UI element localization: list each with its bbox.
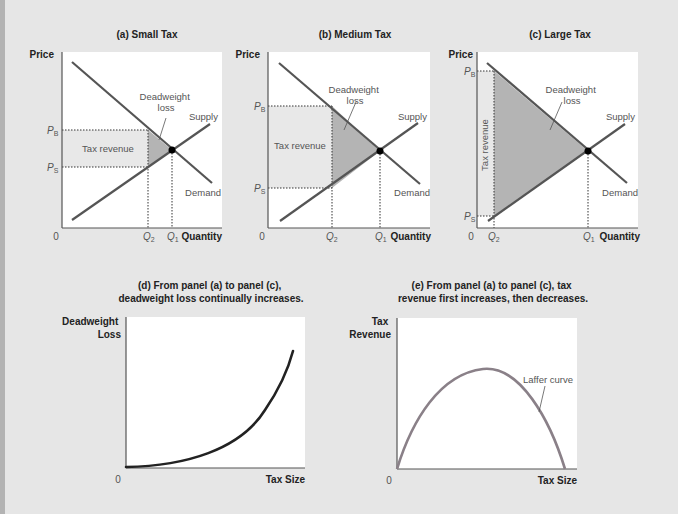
panel-c-tax-revenue-label: Tax revenue — [479, 119, 490, 171]
panel-a-origin: 0 — [53, 231, 59, 242]
panel-c-demand-label: Demand — [602, 187, 638, 198]
panel-c-q1-label: Q1 — [583, 231, 595, 243]
panel-e-tax-revenue: (e) From panel (a) to panel (c), tax rev… — [349, 280, 588, 486]
figure: (a) Small Tax Price Quantity 0 Deadweigh… — [0, 0, 678, 514]
panel-d-y-axis-label: Deadweight Loss — [62, 316, 121, 340]
panel-a-q1-label: Q1 — [167, 231, 179, 243]
panel-c-ps-label: PS — [464, 211, 476, 223]
panel-c-large-tax: (c) Large Tax Price Quantity 0 Deadweigh… — [449, 29, 641, 243]
panel-e-title: (e) From panel (a) to panel (c), tax rev… — [398, 280, 588, 304]
panel-c-q2-label: Q2 — [488, 231, 500, 243]
panel-e-plot-area — [397, 318, 577, 469]
panel-b-title: (b) Medium Tax — [319, 29, 392, 40]
panel-e-origin: 0 — [386, 475, 392, 486]
panel-a-x-axis-label: Quantity — [181, 231, 222, 242]
panel-b-equilibrium-point — [377, 148, 384, 155]
panel-a-small-tax: (a) Small Tax Price Quantity 0 Deadweigh… — [30, 29, 223, 243]
panel-b-tax-revenue-label: Tax revenue — [274, 140, 326, 151]
panel-b-origin: 0 — [259, 231, 265, 242]
panel-b-ps-label: PS — [254, 183, 266, 195]
panel-c-pb-label: PB — [464, 66, 476, 78]
panel-b-medium-tax: (b) Medium Tax Price Quantity 0 Deadweig… — [236, 29, 432, 243]
panel-b-demand-label: Demand — [394, 187, 430, 198]
panel-a-supply-label: Supply — [189, 111, 218, 122]
panel-d-x-axis-label: Tax Size — [266, 474, 306, 485]
panel-e-y-axis-label: Tax Revenue — [349, 316, 391, 340]
panel-d-deadweight-loss: (d) From panel (a) to panel (c), deadwei… — [62, 280, 305, 485]
panel-c-equilibrium-point — [585, 148, 592, 155]
panel-e-x-axis-label: Tax Size — [538, 475, 578, 486]
panel-b-q1-label: Q1 — [375, 231, 387, 243]
panel-b-x-axis-label: Quantity — [390, 231, 431, 242]
panel-d-plot-area — [126, 317, 305, 468]
panel-b-pb-label: PB — [254, 101, 266, 113]
panel-e-laffer-curve-label: Laffer curve — [523, 374, 573, 385]
panel-d-title: (d) From panel (a) to panel (c), deadwei… — [118, 280, 303, 304]
panel-a-pb-label: PB — [47, 125, 59, 137]
panel-c-x-axis-label: Quantity — [599, 231, 640, 242]
panel-c-origin: 0 — [468, 231, 474, 242]
panel-b-supply-label: Supply — [398, 111, 427, 122]
panel-a-title: (a) Small Tax — [117, 29, 178, 40]
panel-a-q2-label: Q2 — [143, 231, 155, 243]
panel-a-tax-revenue-label: Tax revenue — [82, 143, 134, 154]
panel-a-equilibrium-point — [169, 147, 176, 154]
panel-d-origin: 0 — [115, 474, 121, 485]
panel-c-supply-label: Supply — [606, 111, 635, 122]
panel-c-y-axis-label: Price — [449, 49, 474, 60]
panel-a-demand-label: Demand — [185, 187, 221, 198]
panel-a-ps-label: PS — [47, 162, 59, 174]
panel-c-title: (c) Large Tax — [529, 29, 591, 40]
panel-b-q2-label: Q2 — [326, 231, 338, 243]
panel-a-y-axis-label: Price — [30, 49, 55, 60]
panel-b-y-axis-label: Price — [236, 49, 261, 60]
